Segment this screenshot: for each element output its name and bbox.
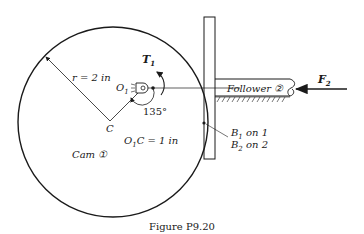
pivot-label: O1 [116,82,129,96]
ground-hatch-icon [215,97,290,102]
cam-label: Cam ① [72,149,108,160]
angle-label: 135° [143,106,167,117]
force-label: F2 [317,73,331,88]
radius-label: r = 2 in [72,72,111,83]
cam-follower-diagram: r = 2 in O1 T1 135° C O1C = 1 in Cam ① F… [0,0,364,234]
b2-label: B2 on 2 [230,139,268,153]
contact-point [202,121,205,124]
radius-line [46,57,110,121]
torque-arrow [157,72,164,95]
figure-caption: Figure P9.20 [149,221,215,232]
figure-p9-20: r = 2 in O1 T1 135° C O1C = 1 in Cam ① F… [0,0,364,234]
center-label: C [106,123,114,134]
follower-label: Follower ② [226,83,284,94]
offset-label: O1C = 1 in [124,135,178,149]
torque-label: T1 [142,53,155,68]
pivot-pin-icon [131,83,148,93]
cam-circle [18,27,208,217]
rod-break-icon [288,79,295,96]
contact-leader [206,124,228,137]
